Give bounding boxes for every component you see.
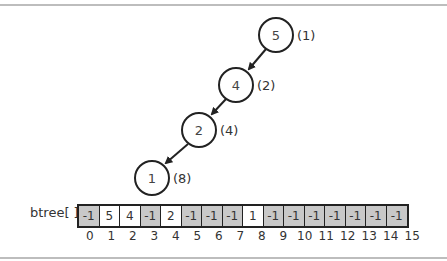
node-value: 5: [272, 28, 280, 43]
array-cell: -1: [366, 206, 387, 226]
node-value: 4: [232, 78, 240, 93]
tree-node: 5(1): [259, 18, 315, 52]
array-index: 12: [337, 229, 359, 243]
btree-array: -154-12-1-1-11-1-1-1-1-1-1-1: [77, 204, 409, 228]
tree-node: 2(4): [182, 113, 238, 147]
node-value: 1: [148, 171, 156, 186]
array-index: 3: [144, 229, 166, 243]
node-index-label: (2): [257, 78, 275, 93]
array-index: 1: [101, 229, 123, 243]
array-cell: -1: [387, 206, 408, 226]
edge-4-to-2: [212, 99, 226, 114]
array-cell: -1: [202, 206, 223, 226]
node-index-label: (1): [297, 28, 315, 43]
array-cell: 1: [243, 206, 264, 226]
array-label: btree[ ]: [30, 205, 79, 220]
array-cell: -1: [264, 206, 285, 226]
array-index: 8: [251, 229, 273, 243]
array-cell: -1: [79, 206, 100, 226]
tree-edges: [166, 49, 266, 163]
array-index: 2: [122, 229, 144, 243]
array-index: 0: [79, 229, 101, 243]
array-cell: 4: [120, 206, 141, 226]
node-index-label: (4): [220, 123, 238, 138]
edge-2-to-1: [166, 144, 188, 163]
node-value: 2: [195, 123, 203, 138]
array-cell: -1: [223, 206, 244, 226]
array-cell: 2: [161, 206, 182, 226]
array-cell: -1: [182, 206, 203, 226]
array-index: 14: [380, 229, 402, 243]
array-index: 6: [208, 229, 230, 243]
array-index: 15: [402, 229, 424, 243]
bottom-divider: [0, 257, 447, 259]
array-cell: -1: [284, 206, 305, 226]
tree-node: 4(2): [219, 68, 275, 102]
array-index: 4: [165, 229, 187, 243]
edge-5-to-4: [249, 49, 266, 69]
array-cell: -1: [141, 206, 162, 226]
array-cell: 5: [100, 206, 121, 226]
array-cell: -1: [325, 206, 346, 226]
array-index: 9: [273, 229, 295, 243]
binary-tree-diagram: 5(1)4(2)2(4)1(8): [0, 0, 447, 200]
array-index: 5: [187, 229, 209, 243]
array-index: 11: [316, 229, 338, 243]
array-index: 7: [230, 229, 252, 243]
array-index: 10: [294, 229, 316, 243]
array-indices: 0123456789101112131415: [79, 229, 423, 243]
array-cell: -1: [346, 206, 367, 226]
array-cell: -1: [305, 206, 326, 226]
tree-node: 1(8): [135, 161, 191, 195]
node-index-label: (8): [173, 171, 191, 186]
array-index: 13: [359, 229, 381, 243]
